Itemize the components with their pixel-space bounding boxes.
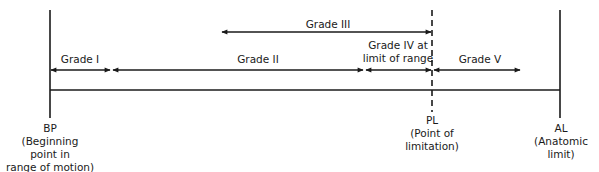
grade-v-label: Grade V — [450, 53, 510, 66]
pl-desc-line2: limitation) — [397, 140, 467, 153]
pl-desc-line1: (Point of — [397, 127, 467, 140]
pl-abbr: PL — [397, 114, 467, 127]
bp-desc-line2: point in — [5, 148, 95, 161]
grade-iv-label: Grade IV at limit of range — [358, 39, 438, 65]
grade-iii-label: Grade III — [298, 18, 358, 31]
bp-label: BP (Beginning point in range of motion) — [5, 122, 95, 172]
al-desc-line2: limit) — [530, 148, 592, 161]
al-desc-line1: (Anatomic — [530, 135, 592, 148]
pl-label: PL (Point of limitation) — [397, 114, 467, 153]
al-label: AL (Anatomic limit) — [530, 122, 592, 161]
grade-iv-label-line1: Grade IV at — [358, 39, 438, 52]
al-abbr: AL — [530, 122, 592, 135]
bp-abbr: BP — [5, 122, 95, 135]
bp-desc-line3: range of motion) — [5, 161, 95, 172]
grade-ii-label: Grade II — [228, 53, 288, 66]
grade-i-label: Grade I — [55, 53, 105, 66]
grade-iv-label-line2: limit of range — [358, 52, 438, 65]
bp-desc-line1: (Beginning — [5, 135, 95, 148]
